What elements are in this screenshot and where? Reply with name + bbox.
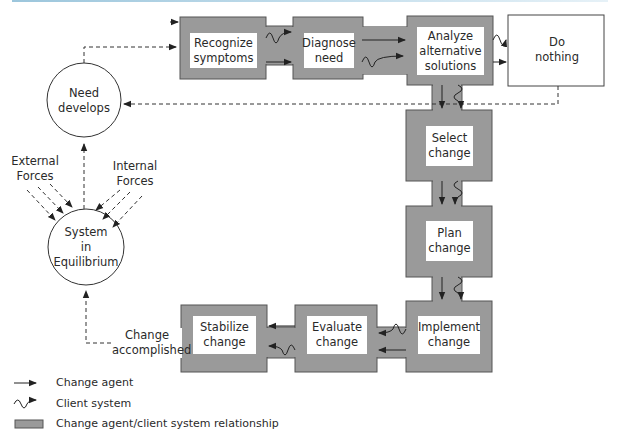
do-nothing-line2: nothing	[535, 50, 579, 65]
system-line1: System	[46, 225, 126, 240]
step-plan-change: Planchange	[426, 221, 473, 261]
step-recognize-symptoms: Recognizesymptoms	[190, 33, 257, 68]
select-line1: Select	[428, 131, 470, 146]
legend-wavy-arrow-icon	[14, 400, 36, 408]
need-line2: develops	[49, 101, 119, 116]
select-line2: change	[428, 146, 470, 161]
step-diagnose-need: Diagnoseneed	[304, 33, 354, 68]
change-accomplished-line1: Change	[112, 328, 182, 343]
implement-line1: Implement	[418, 320, 480, 335]
recognize-line2: symptoms	[193, 51, 253, 66]
legend-client-system: Client system	[56, 397, 131, 410]
external-forces-label: External Forces	[5, 154, 65, 184]
do-nothing-line1: Do	[535, 35, 579, 50]
analyze-line1: Analyze	[419, 29, 481, 44]
step-evaluate-change: Evaluatechange	[307, 316, 367, 354]
plan-line1: Plan	[428, 226, 470, 241]
evaluate-line1: Evaluate	[312, 320, 362, 335]
legend-relationship: Change agent/client system relationship	[56, 417, 279, 430]
step-select-change: Selectchange	[426, 126, 473, 166]
stabilize-line2: change	[200, 335, 249, 350]
evaluate-line2: change	[312, 335, 362, 350]
step-do-nothing: Donothing	[516, 30, 598, 70]
system-line3: Equilibrium	[46, 255, 126, 270]
stabilize-line1: Stabilize	[200, 320, 249, 335]
change-accomplished-label: Change accomplished	[112, 328, 182, 358]
legend-change-agent: Change agent	[56, 376, 133, 389]
system-line2: in	[46, 240, 126, 255]
recognize-line1: Recognize	[193, 36, 253, 51]
diagnose-line2: need	[302, 51, 356, 66]
legend-gray-box-icon	[15, 420, 43, 428]
step-implement-change: Implementchange	[418, 316, 480, 354]
step-stabilize-change: Stabilizechange	[193, 316, 256, 354]
diagnose-line1: Diagnose	[302, 36, 356, 51]
change-accomplished-line2: accomplished	[112, 343, 182, 358]
external-line2: Forces	[5, 169, 65, 184]
implement-line2: change	[418, 335, 480, 350]
need-develops-label: Need develops	[49, 86, 119, 116]
external-line1: External	[5, 154, 65, 169]
analyze-line2: alternative	[419, 44, 481, 59]
need-line1: Need	[49, 86, 119, 101]
internal-line2: Forces	[105, 174, 165, 189]
analyze-line3: solutions	[419, 59, 481, 74]
system-equilibrium-label: System in Equilibrium	[46, 225, 126, 270]
internal-forces-label: Internal Forces	[105, 159, 165, 189]
internal-line1: Internal	[105, 159, 165, 174]
plan-line2: change	[428, 241, 470, 256]
step-analyze-alternative-solutions: Analyzealternativesolutions	[417, 27, 484, 75]
